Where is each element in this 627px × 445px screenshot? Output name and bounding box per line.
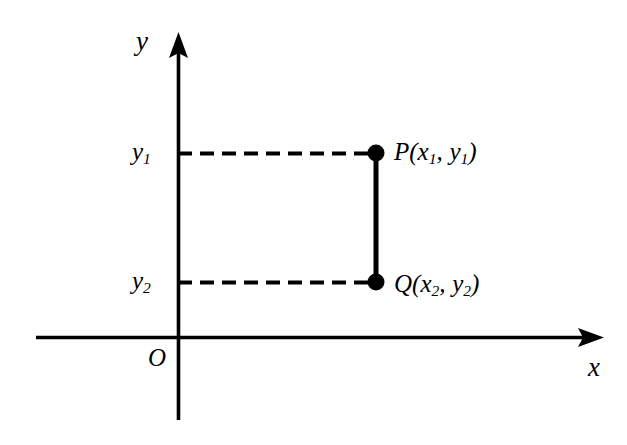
point-p-open-paren: ( bbox=[409, 138, 417, 165]
point-q-marker bbox=[368, 274, 385, 291]
point-p-name: P bbox=[394, 138, 409, 165]
y-axis-label: y bbox=[136, 28, 148, 55]
y1-tick-variable: y bbox=[132, 138, 143, 165]
point-p-close-paren: ) bbox=[468, 138, 476, 165]
point-p-marker bbox=[368, 145, 385, 162]
point-p-comma: , bbox=[436, 138, 449, 165]
y2-tick-subscript: 2 bbox=[143, 279, 151, 296]
y2-tick-variable: y bbox=[132, 267, 143, 294]
point-q-comma: , bbox=[439, 270, 452, 297]
point-p-y-variable: y bbox=[449, 138, 460, 165]
point-q-y-variable: y bbox=[452, 270, 463, 297]
coordinate-diagram: y x O y1 y2 P(x1, y1) Q(x2, y2) bbox=[0, 0, 627, 445]
y1-tick-label: y1 bbox=[132, 139, 151, 164]
diagram-canvas bbox=[0, 0, 627, 445]
x-axis-label: x bbox=[588, 354, 600, 381]
y2-tick-label: y2 bbox=[132, 268, 151, 293]
point-q-name: Q bbox=[394, 270, 412, 297]
point-p-x-variable: x bbox=[418, 138, 429, 165]
point-q-label: Q(x2, y2) bbox=[394, 271, 479, 296]
point-p-label: P(x1, y1) bbox=[394, 139, 477, 164]
origin-label: O bbox=[148, 345, 166, 370]
point-q-y-subscript: 2 bbox=[463, 282, 471, 299]
point-q-x-variable: x bbox=[420, 270, 431, 297]
y1-tick-subscript: 1 bbox=[143, 150, 151, 167]
point-q-close-paren: ) bbox=[471, 270, 479, 297]
